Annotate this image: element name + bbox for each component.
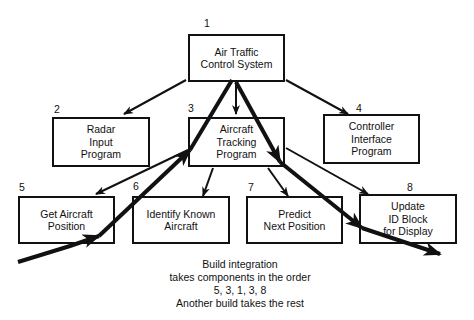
build-path [18,80,440,262]
node-4-number: 4 [356,102,362,114]
node-7-number: 7 [248,181,254,193]
node-5-number: 5 [19,181,25,193]
node-3-number: 3 [188,102,194,114]
node-1-number: 1 [204,17,210,29]
hierarchy-arrows [96,80,368,196]
node-8-number: 8 [407,181,413,193]
node-6-number: 6 [133,180,139,192]
build-integration-caption: Build integration takes components in th… [150,258,330,310]
node-2-number: 2 [54,103,60,115]
